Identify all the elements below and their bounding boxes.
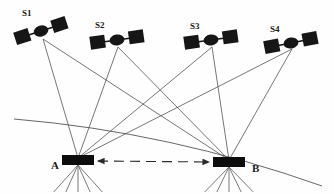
satellite-bus [203, 34, 219, 47]
station-b-mast-leg-1 [217, 167, 229, 192]
satellite-s3 [183, 29, 238, 49]
satellite-geometry-diagram: S1S2S3S4AB [0, 0, 334, 194]
satellite-s1 [13, 16, 68, 45]
satellite-label-s2: S2 [95, 20, 105, 30]
solar-panel-left [13, 28, 31, 45]
station-a-mast-leg-1 [66, 165, 78, 192]
satellites-layer [13, 16, 318, 54]
station-a-mast-leg-3 [78, 165, 90, 192]
signal-ray-s3-to-b [212, 47, 229, 160]
station-b-mast-leg-0 [205, 167, 229, 192]
earth-horizon-arc [14, 119, 322, 186]
solar-panel-left [263, 38, 280, 54]
satellite-bus [32, 23, 50, 38]
satellite-label-s1: S1 [22, 8, 32, 18]
satellite-bus [283, 36, 300, 50]
signal-ray-s1-to-b [43, 39, 229, 160]
station-label-a: A [51, 159, 59, 171]
solar-panel-left [89, 35, 106, 50]
baseline-arrow-A-to-B [98, 161, 209, 162]
satellite-bus [109, 34, 125, 47]
ground-station-b-receiver [213, 157, 245, 167]
solar-panel-left [183, 35, 200, 50]
station-b-mast-leg-4 [229, 167, 253, 192]
solar-panel-right [128, 29, 145, 44]
satellite-s2 [89, 29, 144, 49]
station-b-mast-leg-3 [229, 167, 241, 192]
station-a-mast-leg-4 [78, 165, 102, 192]
signal-ray-s1-to-a [43, 39, 78, 158]
satellite-label-s4: S4 [270, 24, 280, 34]
labels-layer: S1S2S3S4AB [22, 8, 280, 174]
solar-panel-right [50, 16, 68, 33]
satellite-label-s3: S3 [190, 21, 200, 31]
antenna-masts-layer [54, 165, 254, 192]
baseline-layer [98, 161, 209, 162]
station-label-b: B [252, 162, 260, 174]
diagram-canvas: S1S2S3S4AB [0, 0, 334, 194]
solar-panel-right [301, 31, 318, 47]
signal-ray-s4-to-a [78, 49, 292, 158]
horizon-layer [14, 119, 322, 186]
ground-station-a-receiver [62, 155, 94, 165]
signal-ray-s4-to-b [229, 49, 292, 160]
solar-panel-right [222, 29, 239, 44]
